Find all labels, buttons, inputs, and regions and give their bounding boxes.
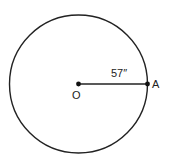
- point-a-label: A: [152, 79, 159, 90]
- center-point: [76, 82, 81, 87]
- radius-label: 57″: [111, 68, 127, 79]
- circle-diagram: [0, 0, 170, 164]
- point-a: [145, 82, 150, 87]
- center-label: O: [72, 90, 81, 101]
